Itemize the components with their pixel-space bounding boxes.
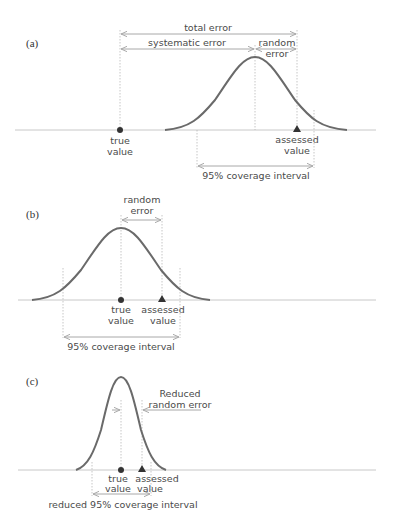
panel-a-distribution-curve <box>165 57 347 130</box>
assessed-value-label-1: assessed <box>141 304 184 315</box>
panel-b: (b) random error true value assessed val… <box>18 194 376 352</box>
error-diagram: (a) total error systematic error random … <box>0 0 395 527</box>
total-error-label: total error <box>184 22 232 33</box>
panel-b-label: (b) <box>26 208 39 221</box>
assessed-value-label-1: assessed <box>275 134 318 145</box>
panel-c: (c) Reduced random error true value asse… <box>18 375 376 510</box>
random-error-label-2: error <box>131 205 154 216</box>
random-error-label-1: random <box>124 194 161 205</box>
reduced-random-error-label-2: random error <box>149 399 212 410</box>
random-error-label-2: error <box>266 48 289 59</box>
random-error-label-1: random <box>259 37 296 48</box>
assessed-value-label-2: value <box>150 315 176 326</box>
panel-c-distribution-curve <box>76 377 166 470</box>
panel-a-label: (a) <box>26 37 39 50</box>
interval-label: 95% coverage interval <box>202 170 309 181</box>
assessed-value-triangle <box>138 465 146 472</box>
reduced-random-error-label-1: Reduced <box>159 388 200 399</box>
systematic-error-label: systematic error <box>148 37 226 48</box>
true-value-dot <box>117 127 123 133</box>
true-value-label-2: value <box>107 146 133 157</box>
true-value-dot <box>118 297 124 303</box>
interval-label: 95% coverage interval <box>67 341 174 352</box>
true-value-label-1: true <box>111 304 131 315</box>
interval-label: reduced 95% coverage interval <box>48 499 197 510</box>
true-value-label-1: true <box>110 135 130 146</box>
panel-c-label: (c) <box>26 375 39 388</box>
assessed-value-triangle <box>293 125 301 132</box>
assessed-value-label-2: value <box>137 483 163 494</box>
true-value-label-2: value <box>105 483 131 494</box>
assessed-value-triangle <box>158 295 166 302</box>
panel-a: (a) total error systematic error random … <box>15 22 376 181</box>
true-value-label-2: value <box>108 315 134 326</box>
assessed-value-label-2: value <box>284 145 310 156</box>
